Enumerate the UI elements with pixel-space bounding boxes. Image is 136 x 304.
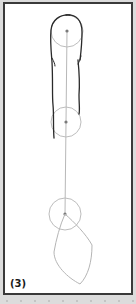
figure-stage: (3) bbox=[0, 0, 136, 304]
middle-joint-dot bbox=[64, 120, 67, 123]
finger-outline-top-right bbox=[66, 15, 82, 60]
figure-label: (3) bbox=[10, 278, 26, 289]
background-dot-row bbox=[0, 298, 136, 304]
limb-construction-drawing bbox=[0, 0, 136, 304]
palm-guide-shape bbox=[54, 214, 92, 284]
top-joint-dot bbox=[65, 29, 68, 32]
finger-outline-right bbox=[78, 60, 79, 114]
